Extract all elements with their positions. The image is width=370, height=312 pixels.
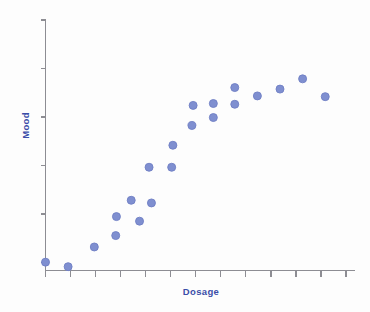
data-point [299,75,307,83]
data-point [127,196,135,204]
data-point [231,84,239,92]
data-point [231,100,239,108]
data-point [42,258,50,266]
data-point [189,101,197,109]
x-axis-ticks [46,271,347,277]
data-point [112,232,120,240]
data-point [136,217,144,225]
data-point [64,263,72,271]
data-point [90,243,98,251]
scatter-chart: Mood Dosage [0,0,370,312]
data-point [209,114,217,122]
data-point [209,100,217,108]
data-point [168,163,176,171]
axes [46,20,356,271]
y-axis-title: Mood [12,120,26,131]
data-point [169,141,177,149]
data-point [147,199,155,207]
plot-area [0,0,370,312]
data-point [321,93,329,101]
x-axis-title: Dosage [0,286,370,297]
data-point [145,163,153,171]
data-point [253,92,261,100]
y-axis-title-text: Mood [20,112,31,139]
x-axis-title-text: Dosage [183,286,219,297]
data-point [276,85,284,93]
data-point [188,122,196,130]
data-point [112,213,120,221]
data-points [42,75,330,271]
y-axis-ticks [41,20,46,263]
